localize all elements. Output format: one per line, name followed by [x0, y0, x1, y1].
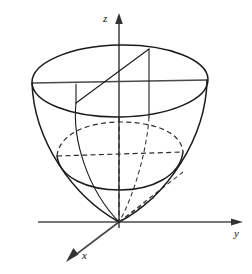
x-axis-line: [74, 222, 119, 256]
top-disc-diagonal-chord: [76, 49, 149, 103]
front-parabola-left-branch: [75, 103, 119, 222]
x-axis-label: x: [82, 250, 87, 261]
back-parabola-branch: [119, 117, 149, 222]
paraboloid-svg: [0, 0, 252, 274]
right-silhouette-parabola: [119, 80, 207, 222]
z-axis-arrowhead: [115, 13, 123, 24]
y-axis-arrowhead: [231, 218, 243, 225]
x-axis-arrowhead: [66, 248, 78, 262]
z-axis-label: z: [103, 13, 107, 24]
mid-rim-front-arc: [57, 152, 183, 190]
x-axis-hidden-ray: [119, 172, 183, 222]
y-axis-label: y: [234, 228, 239, 239]
paraboloid-figure: z y x: [0, 0, 252, 274]
mid-rim-diameter-y: [57, 152, 183, 156]
